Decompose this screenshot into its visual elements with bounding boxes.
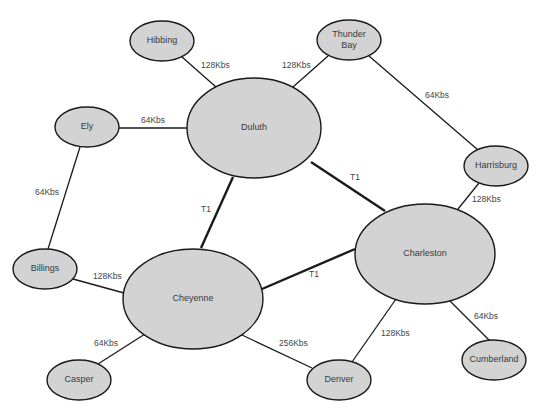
edge-duluth-charleston xyxy=(311,162,385,211)
network-diagram-canvas: HibbingThunderBayElyDuluthHarrisburgChar… xyxy=(0,0,544,416)
edge-thunder-bay-harrisburg xyxy=(369,56,478,150)
node-ely: Ely xyxy=(55,107,119,147)
node-denver: Denver xyxy=(307,360,371,400)
node-casper: Casper xyxy=(47,360,111,400)
node-label-denver: Denver xyxy=(324,374,353,384)
node-label-harrisburg: Harrisburg xyxy=(475,160,517,170)
edge-label-hibbing-duluth: 128Kbs xyxy=(201,60,230,70)
edge-label-billings-cheyenne: 128Kbs xyxy=(93,271,122,281)
edge-billings-cheyenne xyxy=(73,279,124,293)
node-billings: Billings xyxy=(13,249,77,289)
edge-ely-billings xyxy=(48,147,80,249)
node-hibbing: Hibbing xyxy=(130,21,194,61)
edge-label-cheyenne-casper: 64Kbs xyxy=(94,338,118,348)
node-charleston: Charleston xyxy=(355,204,495,304)
edge-label-duluth-cheyenne: T1 xyxy=(201,204,211,214)
node-label-billings: Billings xyxy=(31,263,60,273)
edge-label-charleston-denver: 128Kbs xyxy=(381,328,410,338)
node-label-casper: Casper xyxy=(64,374,93,384)
edge-label-duluth-charleston: T1 xyxy=(350,172,360,182)
node-label-ely: Ely xyxy=(81,121,94,131)
edge-label-ely-duluth: 64Kbs xyxy=(141,115,165,125)
edge-label-harrisburg-charleston: 128Kbs xyxy=(472,194,501,204)
node-label-cheyenne: Cheyenne xyxy=(172,293,213,303)
node-label-charleston: Charleston xyxy=(403,248,447,258)
edge-label-thunder-bay-duluth: 128Kbs xyxy=(282,60,311,70)
nodes-layer: HibbingThunderBayElyDuluthHarrisburgChar… xyxy=(13,20,528,400)
edge-label-charleston-cumberland: 64Kbs xyxy=(474,311,498,321)
node-label-cumberland: Cumberland xyxy=(469,354,518,364)
edge-label-thunder-bay-harrisburg: 64Kbs xyxy=(425,90,449,100)
node-harrisburg: Harrisburg xyxy=(464,146,528,186)
node-duluth: Duluth xyxy=(187,78,321,178)
edge-label-cheyenne-denver: 256Kbs xyxy=(279,338,308,348)
node-cheyenne: Cheyenne xyxy=(123,249,263,349)
edge-label-ely-billings: 64Kbs xyxy=(35,187,59,197)
node-label-thunder-bay: Bay xyxy=(341,40,357,50)
network-diagram: HibbingThunderBayElyDuluthHarrisburgChar… xyxy=(0,0,544,416)
node-thunder-bay: ThunderBay xyxy=(317,20,381,60)
edge-label-cheyenne-charleston: T1 xyxy=(309,269,319,279)
node-label-hibbing: Hibbing xyxy=(147,35,178,45)
node-label-thunder-bay: Thunder xyxy=(332,29,366,39)
node-label-duluth: Duluth xyxy=(241,122,267,132)
node-cumberland: Cumberland xyxy=(462,340,526,380)
